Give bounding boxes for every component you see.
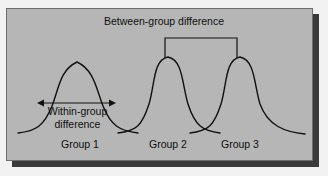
curve-group-3 xyxy=(190,57,305,134)
between-group-difference-label: Between-group difference xyxy=(0,16,328,28)
within-group-difference-label: Within-groupdifference xyxy=(0,105,155,130)
group-1-label: Group 1 xyxy=(47,139,113,151)
within-group-label-line-1: Within-group xyxy=(48,105,108,117)
between-group-bracket xyxy=(165,38,237,58)
group-2-label: Group 2 xyxy=(135,139,201,151)
group-3-label: Group 3 xyxy=(207,139,273,151)
figure-container: Between-group difference Within-groupdif… xyxy=(0,0,328,176)
within-group-label-line-2: difference xyxy=(55,118,101,130)
